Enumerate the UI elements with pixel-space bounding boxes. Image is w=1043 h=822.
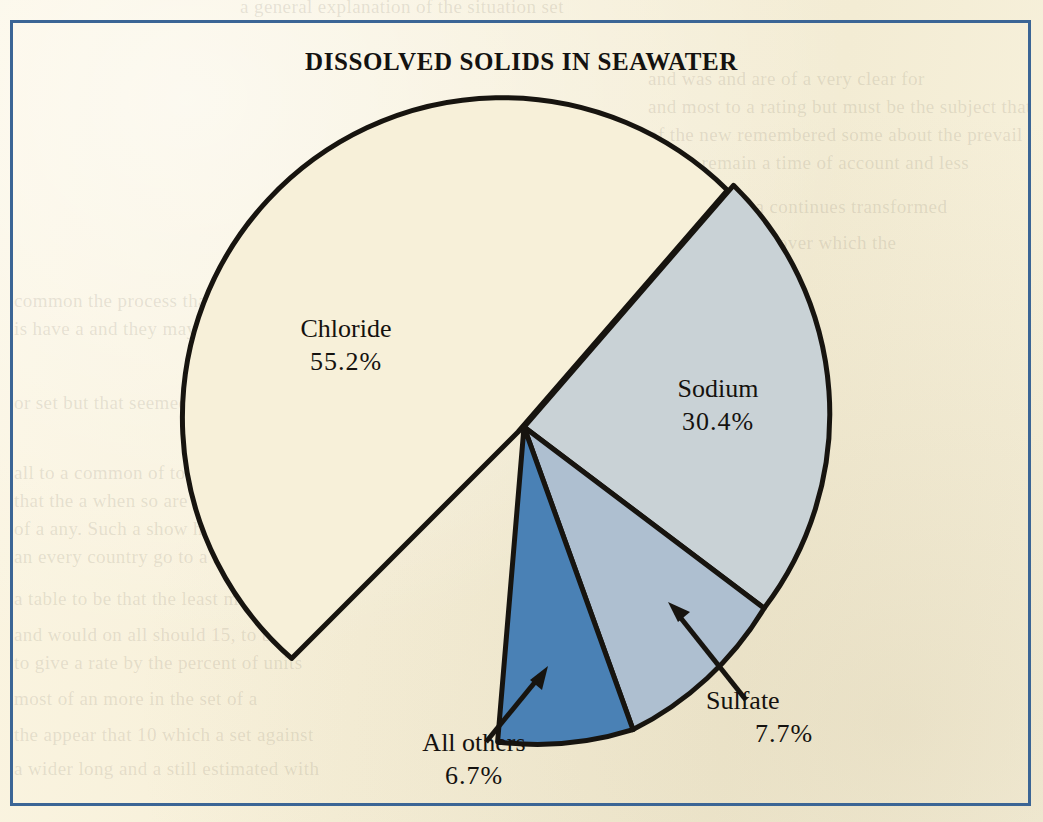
slice-label-sodium: Sodium 30.4% (618, 372, 818, 439)
slice-label-all-others: All others 6.7% (374, 726, 574, 793)
slice-label-sulfate-name: Sulfate (706, 686, 780, 715)
slice-label-all-others-value: 6.7% (374, 759, 574, 792)
slice-label-chloride-name: Chloride (301, 314, 392, 343)
slice-label-sodium-value: 30.4% (618, 405, 818, 438)
slice-label-chloride-value: 55.2% (246, 345, 446, 378)
slice-label-chloride: Chloride 55.2% (246, 312, 446, 379)
scanned-book-page: a general explanation of the situation s… (0, 0, 1043, 822)
slice-label-sodium-name: Sodium (678, 374, 759, 403)
slice-label-sulfate: Sulfate 7.7% (706, 684, 896, 751)
slice-label-all-others-name: All others (422, 728, 525, 757)
slice-label-sulfate-value: 7.7% (706, 717, 896, 750)
